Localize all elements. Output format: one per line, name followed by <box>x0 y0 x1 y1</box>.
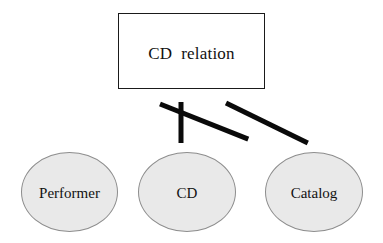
node-performer-label: Performer <box>39 185 100 202</box>
node-cd-relation[interactable]: CD relation <box>118 13 265 89</box>
node-cd-label: CD <box>177 185 198 202</box>
edge-root-cd <box>179 102 184 143</box>
node-cd[interactable]: CD <box>138 152 236 232</box>
node-catalog[interactable]: Catalog <box>265 152 363 232</box>
diagram-canvas: CD relation Performer CD Catalog <box>0 0 383 243</box>
node-cd-relation-label: CD relation <box>148 38 234 64</box>
node-catalog-label: Catalog <box>291 185 338 202</box>
node-performer[interactable]: Performer <box>21 152 118 232</box>
edge-root-catalog <box>225 101 309 145</box>
